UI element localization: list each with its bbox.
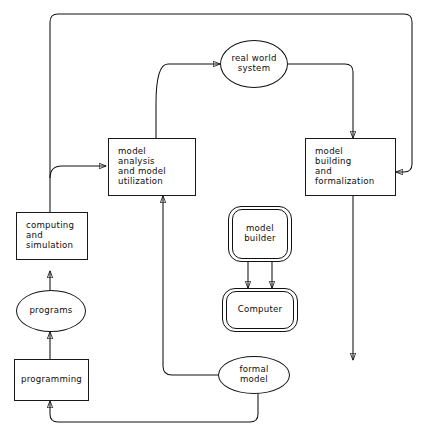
node-label: model building and formalization — [306, 147, 395, 186]
node-formal-model[interactable]: formal model — [218, 356, 290, 394]
node-label: computing and simulation — [17, 221, 87, 250]
diagram-canvas: real world system model analysis and mod… — [0, 0, 432, 437]
edge-trunk-to-rws — [156, 64, 220, 104]
edge-rws-to-building — [288, 64, 353, 138]
node-model-analysis[interactable]: model analysis and model utilization — [108, 138, 196, 196]
node-computer[interactable]: Computer — [222, 288, 298, 332]
node-label: Computer — [238, 305, 283, 315]
node-real-world-system[interactable]: real world system — [220, 40, 288, 88]
node-programs[interactable]: programs — [16, 290, 86, 332]
node-model-builder[interactable]: model builder — [228, 206, 292, 262]
edge-computing-to-analysis — [50, 166, 106, 178]
node-label: model analysis and model utilization — [109, 147, 195, 186]
node-label: model builder — [244, 224, 276, 244]
node-label: real world system — [221, 54, 287, 74]
node-label: formal model — [219, 365, 289, 385]
node-computing-simulation[interactable]: computing and simulation — [16, 212, 88, 260]
edge-formal-to-analysis — [163, 196, 218, 375]
node-programming[interactable]: programming — [14, 359, 89, 401]
node-label: programs — [17, 306, 85, 316]
node-model-building[interactable]: model building and formalization — [305, 138, 396, 196]
node-label: programming — [15, 375, 88, 385]
